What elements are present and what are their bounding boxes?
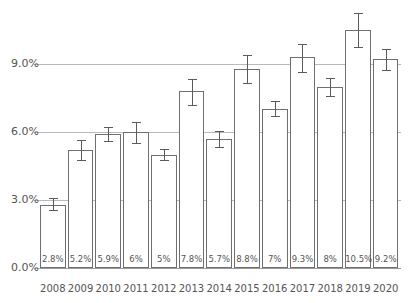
errorbar-cap-low-2009 [77,160,86,161]
x-axis-label-2011: 2011 [122,283,150,294]
bar-2018 [317,87,343,268]
errorbar-stem-2011 [136,122,137,144]
errorbar-stem-2014 [219,131,220,147]
bar-2009 [68,150,94,268]
errorbar-cap-low-2008 [49,210,58,211]
bar-value-label-2018: 8% [317,255,343,264]
errorbar-cap-high-2010 [104,127,113,128]
errorbar-cap-low-2011 [132,143,141,144]
bar-value-label-2013: 7.8% [179,255,205,264]
errorbar-cap-high-2014 [215,131,224,132]
errorbar-cap-high-2009 [77,140,86,141]
bar-2012 [151,155,177,268]
x-axis-label-2012: 2012 [150,283,178,294]
errorbar-stem-2013 [192,79,193,105]
errorbar-cap-high-2018 [326,78,335,79]
y-axis-label-6: 6.0% [3,126,39,137]
bar-2014 [206,139,232,268]
x-axis-label-2015: 2015 [233,283,261,294]
errorbar-cap-low-2017 [298,72,307,73]
errorbar-stem-2012 [164,149,165,160]
y-axis-label-0: 0.0% [3,262,39,273]
errorbar-stem-2016 [275,101,276,116]
bar-2011 [123,132,149,268]
errorbar-cap-high-2019 [354,13,363,14]
x-axis-line [40,268,401,269]
bar-value-label-2017: 9.3% [290,255,316,264]
bar-2019 [345,30,371,268]
bar-2015 [234,69,260,268]
bar-value-label-2009: 5.2% [68,255,94,264]
errorbar-stem-2019 [358,13,359,47]
x-axis-label-2020: 2020 [372,283,400,294]
errorbar-cap-low-2010 [104,141,113,142]
bar-value-label-2020: 9.2% [373,255,399,264]
errorbar-cap-low-2020 [382,70,391,71]
bar-2013 [179,91,205,268]
errorbar-cap-low-2014 [215,147,224,148]
errorbar-cap-high-2020 [382,49,391,50]
bar-value-label-2011: 6% [123,255,149,264]
bar-value-label-2019: 10.5% [345,255,371,264]
bar-value-label-2012: 5% [151,255,177,264]
x-axis-label-2019: 2019 [344,283,372,294]
errorbar-stem-2009 [81,140,82,160]
bar-2020 [373,59,399,268]
x-axis-label-2010: 2010 [94,283,122,294]
bar-2017 [290,57,316,268]
errorbar-cap-high-2008 [49,198,58,199]
x-axis-label-2014: 2014 [205,283,233,294]
errorbar-cap-high-2016 [271,101,280,102]
errorbar-cap-high-2015 [243,55,252,56]
errorbar-cap-low-2013 [188,105,197,106]
errorbar-cap-high-2013 [188,79,197,80]
x-axis-label-2013: 2013 [178,283,206,294]
errorbar-stem-2020 [386,49,387,69]
errorbar-cap-low-2015 [243,83,252,84]
errorbar-stem-2010 [108,127,109,141]
errorbar-cap-high-2011 [132,122,141,123]
errorbar-cap-high-2012 [160,149,169,150]
errorbar-stem-2018 [330,78,331,96]
errorbar-cap-high-2017 [298,44,307,45]
x-axis-label-2018: 2018 [316,283,344,294]
errorbar-cap-low-2016 [271,116,280,117]
bar-value-label-2016: 7% [262,255,288,264]
x-axis-label-2016: 2016 [261,283,289,294]
bar-2010 [95,134,121,268]
errorbar-stem-2008 [53,198,54,210]
y-axis-label-3: 3.0% [3,194,39,205]
bar-chart: 9.0% 6.0% 3.0% 0.0% 2.8%5.2%5.9%6%5%7.8%… [0,0,411,303]
bar-value-label-2014: 5.7% [206,255,232,264]
x-axis-label-2017: 2017 [289,283,317,294]
x-axis-label-2008: 2008 [39,283,67,294]
errorbar-stem-2015 [247,55,248,83]
errorbar-cap-low-2018 [326,96,335,97]
y-axis-label-9: 9.0% [3,58,39,69]
x-axis-label-2009: 2009 [67,283,95,294]
errorbar-stem-2017 [302,44,303,72]
bar-value-label-2008: 2.8% [40,255,66,264]
errorbar-cap-low-2019 [354,47,363,48]
bar-value-label-2010: 5.9% [95,255,121,264]
errorbar-cap-low-2012 [160,160,169,161]
bar-value-label-2015: 8.8% [234,255,260,264]
bar-2016 [262,109,288,268]
